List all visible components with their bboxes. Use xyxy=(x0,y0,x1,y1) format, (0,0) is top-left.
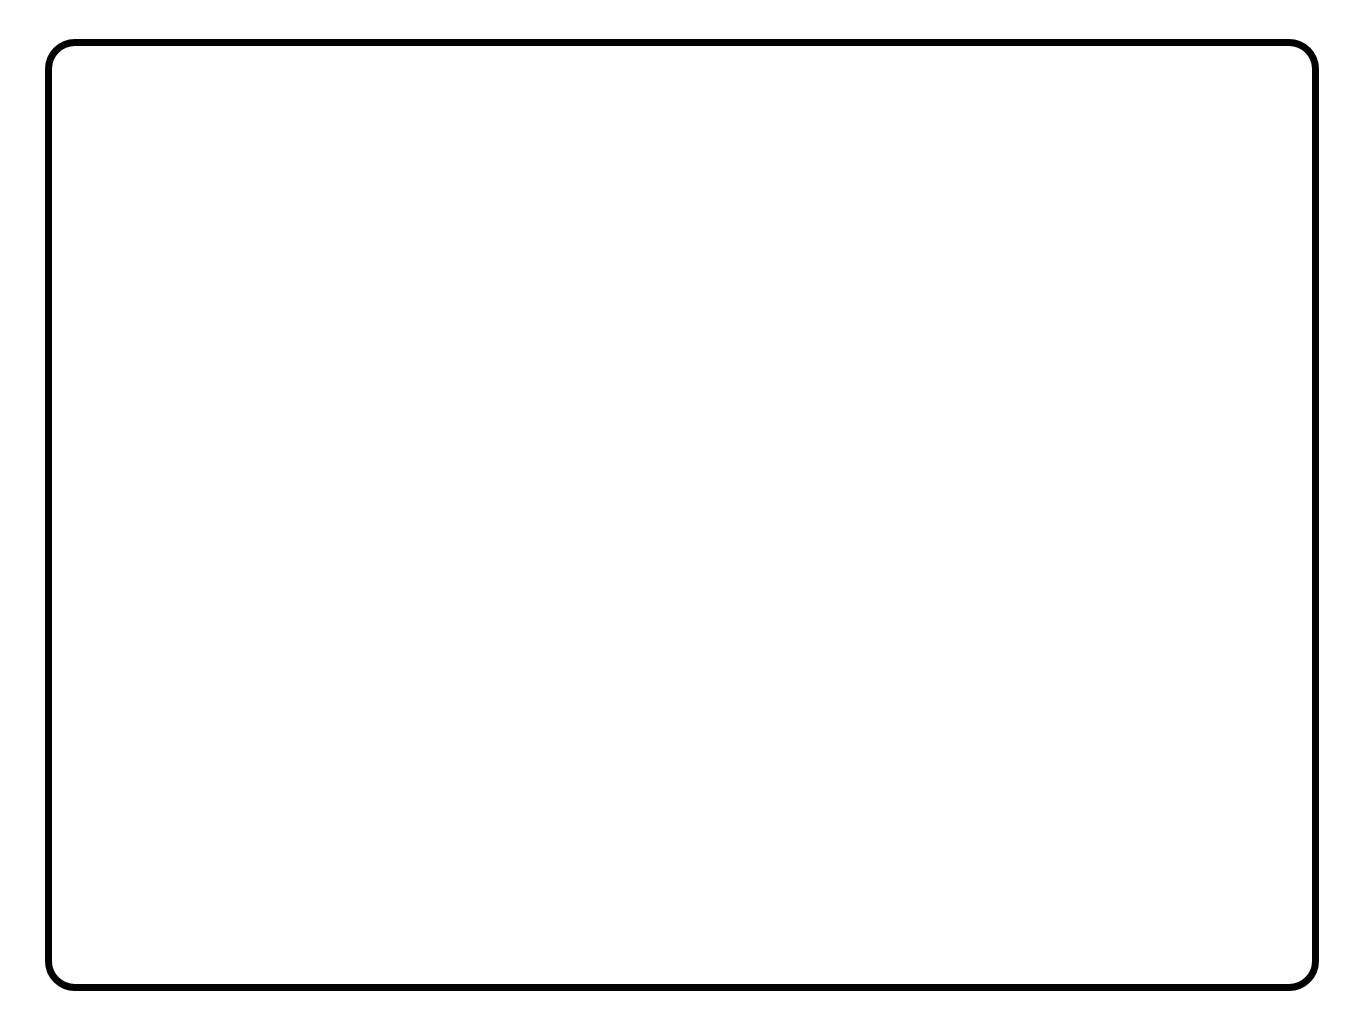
worksheet-page: 1 2 3 4 5 xyxy=(0,0,1366,1026)
worksheet-frame xyxy=(45,39,1319,991)
